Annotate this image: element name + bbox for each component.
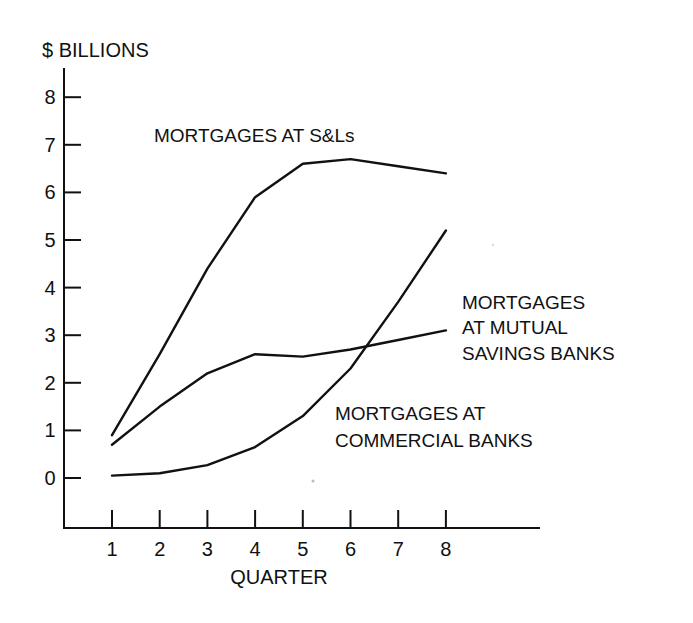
label-sls: MORTGAGES AT S&Ls <box>154 125 355 146</box>
label-cb-line-2: COMMERCIAL BANKS <box>335 430 533 451</box>
line-chart: $ BILLIONS 012345678 12345678 QUARTER MO… <box>0 0 693 623</box>
y-tick-label: 3 <box>44 324 55 346</box>
y-tick-label: 6 <box>44 181 55 203</box>
label-msb-line-1: MORTGAGES <box>462 292 585 313</box>
y-axis-title: $ BILLIONS <box>42 39 149 61</box>
y-tick-label: 4 <box>44 277 55 299</box>
y-tick-label: 7 <box>44 134 55 156</box>
x-tick-label: 6 <box>345 538 356 560</box>
x-tick-label: 7 <box>393 538 404 560</box>
y-tick-label: 8 <box>44 86 55 108</box>
x-tick-label: 8 <box>440 538 451 560</box>
chart-background <box>0 0 693 623</box>
label-cb-line-1: MORTGAGES AT <box>335 403 486 424</box>
x-tick-label: 2 <box>154 538 165 560</box>
x-tick-label: 1 <box>106 538 117 560</box>
x-axis-title: QUARTER <box>230 566 327 588</box>
scan-speck <box>312 480 315 483</box>
y-tick-label: 2 <box>44 372 55 394</box>
y-tick-label: 0 <box>44 467 55 489</box>
y-tick-label: 5 <box>44 229 55 251</box>
x-tick-label: 3 <box>202 538 213 560</box>
label-msb-line-3: SAVINGS BANKS <box>462 343 615 364</box>
x-tick-label: 5 <box>297 538 308 560</box>
label-msb-line-2: AT MUTUAL <box>462 317 568 338</box>
scan-speck <box>492 244 494 246</box>
y-tick-label: 1 <box>44 419 55 441</box>
x-tick-label: 4 <box>250 538 261 560</box>
